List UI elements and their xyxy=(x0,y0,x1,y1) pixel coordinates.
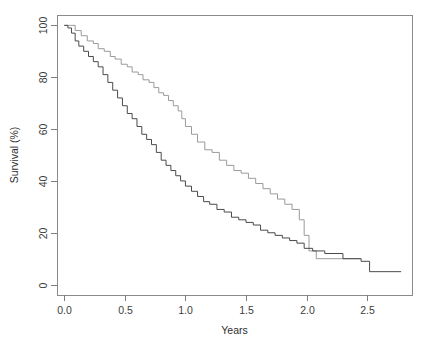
x-tick-label: 0.5 xyxy=(118,304,133,316)
x-tick-label: 0.0 xyxy=(57,304,72,316)
km-plot-svg: 0.00.51.01.52.02.5 020406080100 Years Su… xyxy=(0,0,423,345)
y-tick-label: 60 xyxy=(37,124,49,136)
chart-background xyxy=(0,0,423,345)
y-tick-label: 20 xyxy=(37,228,49,240)
x-tick-label: 2.5 xyxy=(360,304,375,316)
x-tick-label: 1.0 xyxy=(178,304,193,316)
y-axis-title: Survival (%) xyxy=(8,127,20,184)
y-tick-label: 40 xyxy=(37,176,49,188)
y-tick-label: 100 xyxy=(37,17,49,35)
survival-chart: 0.00.51.01.52.02.5 020406080100 Years Su… xyxy=(0,0,423,345)
x-tick-label: 2.0 xyxy=(300,304,315,316)
x-axis-title: Years xyxy=(221,324,247,336)
y-tick-label: 0 xyxy=(37,282,49,288)
y-tick-label: 80 xyxy=(37,72,49,84)
x-tick-label: 1.5 xyxy=(239,304,254,316)
